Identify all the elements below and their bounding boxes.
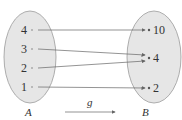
set-a-ellipse: [4, 11, 56, 103]
set-a-label: A: [24, 106, 32, 118]
codomain-element: 4: [153, 51, 159, 65]
domain-element: 3: [21, 42, 27, 56]
domain-element: 1: [21, 80, 27, 94]
domain-element: 4: [21, 23, 27, 37]
mapping-arrow: [38, 87, 145, 88]
codomain-element: 2: [153, 81, 159, 95]
set-b-label: B: [142, 106, 149, 118]
codomain-element: 10: [153, 23, 165, 37]
domain-element: 2: [21, 61, 27, 75]
mapping-diagram: 4 3 2 1 10 4 2 g A B: [0, 0, 182, 120]
function-label: g: [87, 96, 93, 108]
